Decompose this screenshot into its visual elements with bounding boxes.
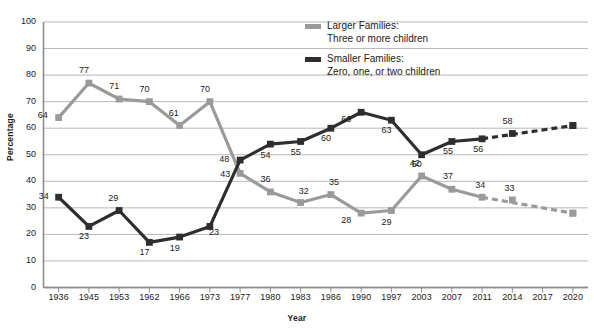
point-value-label: 70 — [200, 84, 210, 94]
series-marker-0 — [418, 173, 425, 180]
point-value-label: 23 — [79, 231, 89, 241]
series-marker-1 — [509, 130, 516, 137]
point-value-label: 77 — [79, 65, 89, 75]
chart-legend: Larger Families: Three or more children … — [305, 20, 505, 86]
legend-swatch-icon-larger — [305, 24, 321, 29]
point-value-label: 32 — [299, 186, 309, 196]
series-marker-0 — [55, 114, 62, 121]
legend-label-larger-line1: Larger Families: — [327, 20, 428, 33]
point-value-label: 48 — [219, 154, 229, 164]
point-value-label: 63 — [381, 125, 391, 135]
series-marker-0 — [327, 191, 334, 198]
series-marker-1 — [358, 109, 365, 116]
series-marker-1 — [116, 207, 123, 214]
series-marker-0 — [479, 194, 486, 201]
point-value-label: 37 — [443, 171, 453, 181]
point-value-label: 28 — [341, 215, 351, 225]
point-value-label: 29 — [381, 217, 391, 227]
point-value-label: 33 — [504, 183, 514, 193]
series-marker-0 — [146, 98, 153, 105]
series-projection-marker-0 — [569, 210, 576, 217]
series-marker-0 — [176, 122, 183, 129]
series-marker-1 — [237, 157, 244, 164]
series-marker-0 — [297, 199, 304, 206]
point-value-label: 19 — [170, 243, 180, 253]
point-value-label: 34 — [39, 191, 49, 201]
legend-label-larger-line2: Three or more children — [327, 33, 428, 46]
point-value-label: 70 — [139, 84, 149, 94]
legend-item-larger-families: Larger Families: Three or more children — [305, 20, 505, 45]
point-value-label: 60 — [321, 133, 331, 143]
point-value-label: 54 — [260, 150, 270, 160]
series-marker-1 — [176, 234, 183, 241]
legend-item-smaller-families: Smaller Families: Zero, one, or two chil… — [305, 53, 505, 78]
series-marker-1 — [85, 223, 92, 230]
legend-label-smaller-line2: Zero, one, or two children — [327, 66, 440, 79]
point-value-label: 61 — [169, 108, 179, 118]
series-marker-0 — [448, 186, 455, 193]
series-marker-0 — [206, 98, 213, 105]
series-marker-1 — [448, 138, 455, 145]
series-projection-line-0 — [482, 197, 573, 213]
series-projection-marker-1 — [569, 122, 576, 129]
series-marker-0 — [388, 207, 395, 214]
series-marker-1 — [267, 141, 274, 148]
point-value-label: 34 — [475, 180, 485, 190]
series-marker-0 — [267, 189, 274, 196]
series-marker-1 — [388, 117, 395, 124]
point-value-label: 71 — [109, 81, 119, 91]
series-marker-1 — [55, 194, 62, 201]
series-marker-0 — [358, 210, 365, 217]
point-value-label: 50 — [412, 159, 422, 169]
series-marker-1 — [146, 239, 153, 246]
point-value-label: 29 — [108, 193, 118, 203]
series-marker-0 — [85, 80, 92, 87]
point-value-label: 58 — [502, 116, 512, 126]
series-marker-1 — [327, 125, 334, 132]
point-value-label: 17 — [139, 247, 149, 257]
series-marker-1 — [479, 135, 486, 142]
series-marker-0 — [509, 196, 516, 203]
point-value-label: 66 — [341, 114, 351, 124]
point-value-label: 56 — [473, 144, 483, 154]
point-value-label: 35 — [329, 177, 339, 187]
series-marker-0 — [237, 170, 244, 177]
series-marker-1 — [297, 138, 304, 145]
legend-label-smaller-line1: Smaller Families: — [327, 53, 440, 66]
point-value-label: 64 — [38, 110, 48, 120]
point-value-label: 23 — [209, 227, 219, 237]
point-value-label: 55 — [443, 146, 453, 156]
point-value-label: 55 — [291, 147, 301, 157]
series-marker-0 — [116, 96, 123, 103]
chart-container: Percentage Year 0102030405060708090100 1… — [0, 0, 594, 330]
point-value-label: 36 — [260, 174, 270, 184]
series-projection-line-1 — [482, 126, 573, 139]
legend-swatch-icon-smaller — [305, 57, 321, 62]
point-value-label: 43 — [220, 169, 230, 179]
